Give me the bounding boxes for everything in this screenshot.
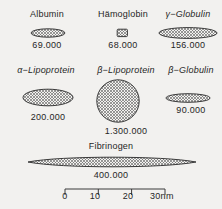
- scale-tick-label-20: 20: [121, 191, 135, 201]
- protein-shape-albumin-ellipse: [30, 27, 66, 39]
- protein-label-gamma-globulin: γ−Globulin: [155, 9, 221, 20]
- scale-tick-label-0: 0: [60, 191, 70, 201]
- protein-value-fibrinogen: 400.000: [56, 170, 166, 180]
- protein-shape-gamma-globulin-ellipse: [158, 26, 218, 40]
- protein-label-beta-lipoprotein: β−Lipoprotein: [86, 65, 166, 76]
- protein-shape-beta-globulin-ellipse: [165, 92, 211, 104]
- protein-size-diagram: Albumin 69.000 Hämoglobin 68.000: [0, 0, 222, 209]
- protein-shape-beta-lipoprotein-circle: [96, 79, 140, 123]
- protein-value-beta-lipoprotein: 1.300.000: [80, 126, 172, 136]
- protein-value-gamma-globulin: 156.000: [155, 40, 221, 50]
- protein-label-albumin: Albumin: [8, 9, 86, 20]
- protein-value-haemoglobin: 68.000: [86, 40, 160, 50]
- protein-value-alpha-lipoprotein: 200.000: [0, 112, 96, 122]
- protein-shape-haemoglobin-square: [116, 27, 129, 39]
- protein-shape-alpha-lipoprotein-ellipse: [22, 88, 74, 107]
- protein-value-albumin: 69.000: [8, 40, 86, 50]
- protein-value-beta-globulin: 90.000: [160, 105, 222, 115]
- scale-tick-label-30nm: 30nm: [150, 191, 182, 201]
- protein-shape-fibrinogen-spindle: [27, 155, 197, 169]
- protein-label-haemoglobin: Hämoglobin: [86, 9, 160, 20]
- protein-label-beta-globulin: β−Globulin: [160, 65, 222, 76]
- protein-label-alpha-lipoprotein: α−Lipoprotein: [0, 65, 92, 76]
- protein-label-fibrinogen: Fibrinogen: [56, 141, 166, 152]
- scale-tick-label-10: 10: [88, 191, 102, 201]
